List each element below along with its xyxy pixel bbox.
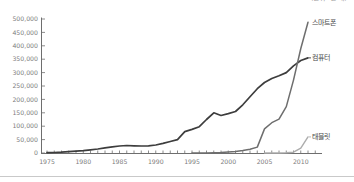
x-tick-label: 2010 (293, 158, 309, 165)
computer-label: 컴퓨터 (312, 53, 330, 62)
smartphone-line (192, 22, 308, 153)
smartphone-label: 스마트폰 (312, 18, 337, 27)
y-tick-label: 300,000 (12, 69, 38, 76)
y-tick-label: 250,000 (12, 82, 38, 89)
tablet-label: 태블릿 (312, 132, 330, 141)
y-tick-label: 50,000 (16, 136, 38, 143)
x-tick-label: 1975 (39, 158, 55, 165)
x-tick-label: 1990 (148, 158, 164, 165)
y-tick-label: 500,000 (12, 15, 38, 22)
y-tick-label: 150,000 (12, 109, 38, 116)
y-tick-label: 200,000 (12, 96, 38, 103)
x-tick-label: 1985 (112, 158, 128, 165)
chart-figure: (단위: 천 대) 050,000100,000150,000200,00025… (0, 0, 354, 182)
x-tick-label: 1980 (75, 158, 91, 165)
x-tick-label: 2005 (257, 158, 273, 165)
x-tick-label: 2000 (220, 158, 236, 165)
bottom-divider (0, 176, 354, 177)
y-tick-label: 0 (34, 149, 38, 156)
x-tick-label: 1995 (184, 158, 200, 165)
y-tick-label: 100,000 (12, 122, 38, 129)
computer-line (47, 58, 308, 153)
y-tick-label: 400,000 (12, 42, 38, 49)
y-tick-label: 350,000 (12, 55, 38, 62)
line-chart-canvas: 050,000100,000150,000200,000250,000300,0… (0, 0, 354, 176)
y-tick-label: 450,000 (12, 29, 38, 36)
